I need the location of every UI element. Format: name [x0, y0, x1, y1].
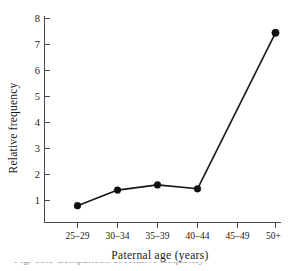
y-tick-label: 3 [35, 143, 40, 154]
y-tick-label: 7 [35, 39, 40, 50]
y-tick-label: 5 [35, 91, 40, 102]
x-tick-label: 30–34 [105, 231, 129, 241]
data-marker-group [74, 29, 279, 209]
data-point-marker[interactable] [74, 202, 81, 209]
y-tick-label: 1 [35, 195, 40, 206]
line-chart: Relative frequency 8 7 6 5 4 3 2 1 [0, 0, 288, 271]
figure-container: Relative frequency 8 7 6 5 4 3 2 1 [0, 0, 288, 271]
x-axis-label: Paternal age (years) [111, 249, 208, 262]
data-point-marker[interactable] [154, 182, 161, 189]
figure-caption-text: Fig. 10.1 Comparison of relative frequen… [14, 262, 204, 265]
y-tick-group: 8 7 6 5 4 3 2 1 [35, 13, 50, 206]
x-tick-label: 40–44 [185, 231, 209, 241]
data-line [78, 33, 276, 206]
y-axis-label: Relative frequency [7, 83, 20, 174]
x-tick-label: 35–39 [145, 231, 169, 241]
y-tick-label: 8 [35, 13, 40, 24]
x-tick-group: 25–29 30–34 35–39 40–44 45–49 50+ [65, 223, 281, 242]
data-point-marker[interactable] [272, 29, 279, 36]
y-tick-label: 2 [35, 169, 40, 180]
data-point-marker[interactable] [114, 187, 121, 194]
x-tick-label: 50+ [266, 231, 281, 241]
y-tick-label: 6 [35, 65, 40, 76]
x-tick-label: 25–29 [65, 231, 89, 241]
figure-caption-sliver: Fig. 10.1 Comparison of relative frequen… [0, 262, 288, 271]
data-point-marker[interactable] [194, 185, 201, 192]
x-tick-label: 45–49 [225, 231, 249, 241]
y-tick-label: 4 [35, 117, 41, 128]
